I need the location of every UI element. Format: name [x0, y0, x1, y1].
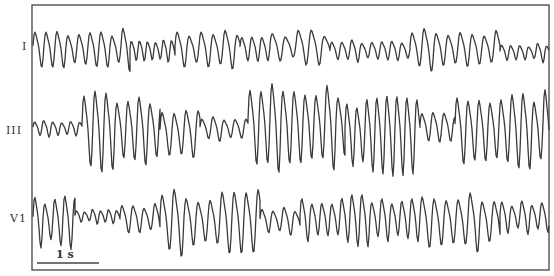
trace-lead-v1: [33, 189, 549, 256]
lead-label-i: I: [22, 40, 27, 53]
ecg-figure: I III V1 1 s: [0, 0, 554, 276]
lead-label-iii: III: [6, 124, 22, 137]
trace-lead-i: [33, 29, 549, 72]
ecg-canvas: [0, 0, 554, 276]
time-scale-label: 1 s: [56, 248, 74, 261]
lead-label-v1: V1: [10, 212, 27, 225]
trace-lead-iii: [33, 84, 549, 177]
